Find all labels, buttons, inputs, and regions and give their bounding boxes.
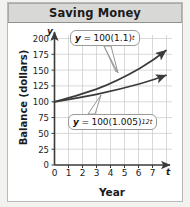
y-tick-25: 25 [23,145,49,155]
x-tick-4: 4 [105,168,117,178]
callout-upper-exponent: t [132,34,135,42]
y-tick-150: 150 [23,66,49,76]
callout-upper-lhs: y [75,33,81,43]
callout-annual-compound-equation[interactable]: y = 100(1.1) t [70,30,140,46]
x-tick-0: 0 [49,168,61,178]
callout-lower-lhs: y [73,117,79,127]
y-axis-variable: y [47,26,53,36]
y-tick-75: 75 [23,113,49,123]
y-tick-50: 50 [23,129,49,139]
callout-upper-base: 100(1.1) [93,33,132,43]
saving-money-figure: Saving Money Balance (dollars) Year [0,0,190,207]
x-tick-7: 7 [147,168,159,178]
x-tick-2: 2 [77,168,89,178]
x-tick-3: 3 [91,168,103,178]
y-tick-0: 0 [23,160,49,170]
x-tick-5: 5 [119,168,131,178]
x-axis-variable: t [166,167,170,177]
callout-lower-equals: = [81,117,89,127]
callout-lower-base: 100(1.005) [91,117,141,127]
x-tick-6: 6 [133,168,145,178]
callout-lower-leader-fill [88,95,101,114]
y-tick-125: 125 [23,81,49,91]
callout-upper-leader-fill [104,46,118,73]
x-tick-1: 1 [63,168,75,178]
callout-upper-equals: = [83,33,91,43]
callout-monthly-compound-equation[interactable]: y = 100(1.005) 12t [68,114,157,130]
y-tick-200: 200 [23,34,49,44]
y-tick-175: 175 [23,50,49,60]
y-tick-100: 100 [23,97,49,107]
callout-lower-exponent: 12t [141,118,152,126]
